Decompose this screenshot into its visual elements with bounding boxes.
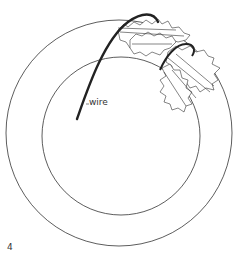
wire-label: wire [89, 97, 108, 107]
step-number: 4 [7, 242, 13, 252]
wreath-diagram [0, 0, 237, 256]
